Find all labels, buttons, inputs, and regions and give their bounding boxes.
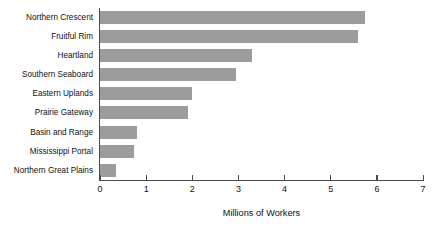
category-label: Northern Great Plains: [0, 161, 97, 180]
bar-row: [100, 27, 423, 46]
bar: [100, 49, 252, 62]
bar-row: [100, 84, 423, 103]
x-axis-tick-label: 4: [270, 184, 300, 194]
x-axis-line: [99, 180, 424, 181]
x-axis-tick-label: 1: [131, 184, 161, 194]
category-label: Prairie Gateway: [0, 103, 97, 122]
x-axis-tick: [238, 175, 239, 180]
x-axis-tick: [284, 175, 285, 180]
bar-row: [100, 65, 423, 84]
x-axis-tick-label: 5: [316, 184, 346, 194]
bar: [100, 11, 365, 24]
x-axis-tick-label: 0: [85, 184, 115, 194]
bar: [100, 106, 188, 119]
x-axis-tick: [423, 175, 424, 180]
bar: [100, 68, 236, 81]
x-axis-tick-label: 7: [408, 184, 435, 194]
x-axis-tick: [100, 175, 101, 180]
category-label: Heartland: [0, 46, 97, 65]
category-label: Fruitful Rim: [0, 27, 97, 46]
bar: [100, 145, 134, 158]
x-axis-tick-label: 2: [177, 184, 207, 194]
bar-chart: Northern Crescent Fruitful Rim Heartland…: [0, 0, 435, 240]
bar-row: [100, 46, 423, 65]
x-axis-tick: [376, 175, 377, 180]
x-axis-tick-label: 6: [362, 184, 392, 194]
plot-area: [100, 8, 423, 180]
x-axis-tick: [192, 175, 193, 180]
category-label: Basin and Range: [0, 123, 97, 142]
y-axis-line: [99, 8, 100, 181]
bar-row: [100, 8, 423, 27]
x-axis-title: Millions of Workers: [100, 208, 423, 218]
bar-row: [100, 142, 423, 161]
category-label: Mississippi Portal: [0, 142, 97, 161]
category-label: Eastern Uplands: [0, 84, 97, 103]
x-axis-tick: [330, 175, 331, 180]
bar: [100, 164, 116, 177]
bar-row: [100, 123, 423, 142]
x-axis-tick-label: 3: [223, 184, 253, 194]
category-label: Northern Crescent: [0, 8, 97, 27]
bar: [100, 30, 358, 43]
category-axis-labels: Northern Crescent Fruitful Rim Heartland…: [0, 8, 97, 180]
x-axis-tick: [146, 175, 147, 180]
bar-row: [100, 161, 423, 180]
category-label: Southern Seaboard: [0, 65, 97, 84]
bar-row: [100, 103, 423, 122]
bar: [100, 126, 137, 139]
bar: [100, 87, 192, 100]
